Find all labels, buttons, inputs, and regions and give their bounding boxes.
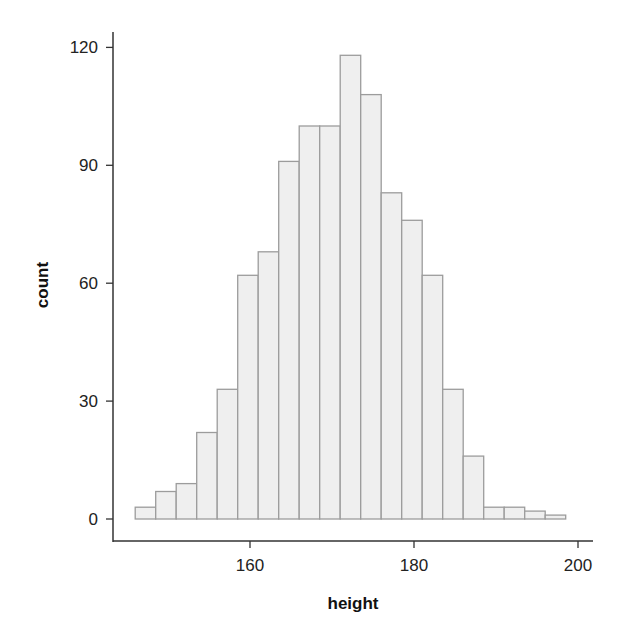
histogram-bar	[504, 507, 525, 519]
histogram-bar	[545, 515, 566, 519]
x-axis-title: height	[328, 594, 379, 613]
y-tick-label: 30	[79, 392, 98, 411]
histogram-bar	[381, 193, 402, 519]
histogram-bar	[484, 507, 505, 519]
x-tick-label: 180	[400, 556, 428, 575]
histogram-bar	[525, 511, 546, 519]
histogram-bar	[361, 95, 382, 519]
histogram-bar	[340, 55, 361, 519]
histogram-bar	[238, 275, 259, 519]
histogram-bar	[135, 507, 156, 519]
x-tick-label: 160	[236, 556, 264, 575]
histogram-bar	[217, 389, 238, 519]
histogram-bar	[156, 492, 177, 520]
y-tick-label: 90	[79, 156, 98, 175]
y-tick-label: 120	[70, 38, 98, 57]
x-axis: 160180200	[113, 541, 593, 575]
histogram-bar	[258, 252, 279, 519]
y-axis-title: count	[33, 262, 52, 309]
histogram-bar	[443, 389, 464, 519]
histogram-bar	[197, 433, 218, 520]
y-axis: 0306090120	[70, 32, 113, 542]
histogram-bar	[320, 126, 341, 519]
histogram-chart: 0306090120 160180200 height count	[0, 0, 628, 642]
y-tick-label: 60	[79, 274, 98, 293]
x-tick-label: 200	[564, 556, 592, 575]
histogram-bar	[299, 126, 320, 519]
histogram-bar	[279, 161, 300, 519]
histogram-bars	[135, 55, 566, 519]
histogram-bar	[463, 456, 484, 519]
histogram-bar	[422, 275, 443, 519]
y-tick-label: 0	[89, 510, 98, 529]
histogram-bar	[402, 220, 423, 519]
histogram-bar	[176, 484, 197, 519]
